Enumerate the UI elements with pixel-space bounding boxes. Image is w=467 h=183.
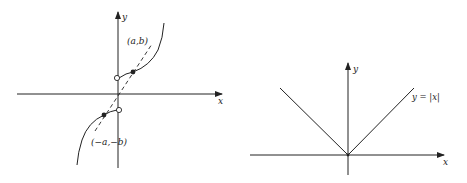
y-axis-label: y — [121, 12, 128, 22]
y-axis-label: y — [352, 64, 359, 74]
figure-canvas: x y (a,b) (−a,−b) x y y = |x| — [0, 0, 467, 183]
open-circle-upper — [114, 75, 119, 80]
abs-value-curve — [280, 88, 414, 155]
origin-dot — [347, 154, 350, 157]
point-neg-a-neg-b — [102, 113, 107, 118]
odd-function-graph: x y (a,b) (−a,−b) — [17, 12, 223, 168]
dashed-line — [95, 44, 152, 131]
point-a-b — [131, 70, 136, 75]
x-axis-label: x — [443, 157, 448, 167]
absolute-value-graph: x y y = |x| — [250, 63, 448, 175]
open-circle-lower — [116, 107, 121, 112]
curve-upper-branch — [119, 23, 164, 78]
curve-label: y = |x| — [411, 92, 440, 103]
label-a-b: (a,b) — [127, 36, 148, 46]
label-neg-a-neg-b: (−a,−b) — [91, 137, 128, 147]
x-axis-label: x — [218, 96, 223, 106]
